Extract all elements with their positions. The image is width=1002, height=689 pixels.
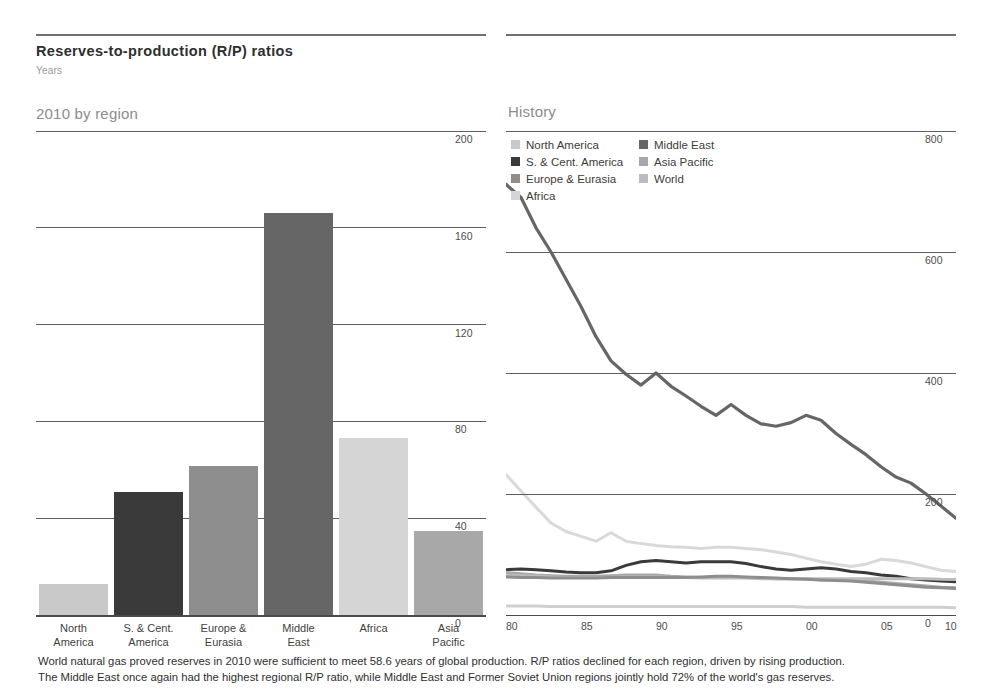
legend-swatch-icon-middle-east (639, 140, 648, 149)
bar-y-tick-80: 80 (455, 423, 467, 435)
legend-label-north-america: North America (526, 139, 599, 151)
bar-y-tick-160: 160 (455, 230, 473, 242)
bar-y-tick-40: 40 (455, 520, 467, 532)
bar-x-label-2-line-1: Eurasia (186, 635, 261, 649)
bar-x-label-5-line-1: Pacific (411, 635, 486, 649)
line-x-tick-95: 95 (731, 620, 743, 632)
legend-swatch-icon-s-cent-america (511, 157, 520, 166)
line-x-tick-00: 00 (806, 620, 818, 632)
bar-x-label-1: S. & Cent.America (111, 621, 186, 649)
legend-label-s-cent-america: S. & Cent. America (526, 156, 623, 168)
bar-x-label-0: NorthAmerica (36, 621, 111, 649)
legend-item-africa[interactable]: Africa (511, 187, 623, 204)
line-gridline-0 (506, 615, 956, 617)
header-rule-right (506, 34, 956, 36)
bar-middle-east (264, 213, 334, 615)
bar-x-label-4: Africa (336, 621, 411, 635)
chart-page: Reserves-to-production (R/P) ratios Year… (0, 0, 1002, 689)
bar-gridline-80 (36, 421, 486, 422)
bar-x-label-0-line-1: America (36, 635, 111, 649)
bar-europe-eurasia (189, 466, 259, 615)
line-gridline-800 (506, 131, 956, 132)
bar-gridline-120 (36, 324, 486, 325)
legend-swatch-icon-asia-pacific (639, 157, 648, 166)
line-series-north-america (506, 606, 956, 608)
legend-item-europe-eurasia[interactable]: Europe & Eurasia (511, 170, 623, 187)
bar-x-label-3-line-0: Middle (261, 621, 336, 635)
line-x-tick-05: 05 (881, 620, 893, 632)
line-y-tick-400: 400 (925, 375, 943, 387)
line-y-tick-200: 200 (925, 496, 943, 508)
chart-caption: World natural gas proved reserves in 201… (38, 653, 968, 685)
bar-x-label-1-line-1: America (111, 635, 186, 649)
line-series-middle-east (506, 184, 956, 518)
bar-x-label-4-line-0: Africa (336, 621, 411, 635)
legend-item-world[interactable]: World (639, 170, 714, 187)
bar-x-label-3: MiddleEast (261, 621, 336, 649)
bar-gridline-40 (36, 518, 486, 519)
page-title: Reserves-to-production (R/P) ratios (36, 43, 293, 59)
bar-x-label-2-line-0: Europe & (186, 621, 261, 635)
bar-africa (339, 438, 409, 615)
bar-x-label-3-line-1: East (261, 635, 336, 649)
bar-north-america (39, 584, 109, 615)
page-subtitle: Years (36, 65, 62, 76)
legend-swatch-icon-world (639, 174, 648, 183)
bar-gridline-0 (36, 615, 486, 617)
bar-x-label-1-line-0: S. & Cent. (111, 621, 186, 635)
legend-swatch-icon-north-america (511, 140, 520, 149)
bar-gridline-160 (36, 227, 486, 228)
legend-label-world: World (654, 173, 684, 185)
bar-y-tick-200: 200 (455, 133, 473, 145)
line-gridline-200 (506, 494, 956, 495)
legend-column-2: Middle EastAsia PacificWorld (639, 136, 714, 187)
bar-y-tick-120: 120 (455, 327, 473, 339)
bar-chart-heading: 2010 by region (36, 105, 138, 122)
line-x-tick-85: 85 (581, 620, 593, 632)
line-x-tick-90: 90 (656, 620, 668, 632)
legend-item-middle-east[interactable]: Middle East (639, 136, 714, 153)
legend-swatch-icon-africa (511, 191, 520, 200)
line-series-africa (506, 475, 956, 572)
line-y-tick-600: 600 (925, 254, 943, 266)
legend-column-1: North AmericaS. & Cent. AmericaEurope & … (511, 136, 623, 204)
bar-x-label-5: AsiaPacific (411, 621, 486, 649)
legend-item-north-america[interactable]: North America (511, 136, 623, 153)
line-gridline-400 (506, 373, 956, 374)
line-chart-heading: History (508, 103, 556, 120)
bar-x-label-0-line-0: North (36, 621, 111, 635)
legend-item-asia-pacific[interactable]: Asia Pacific (639, 153, 714, 170)
bar-x-label-5-line-0: Asia (411, 621, 486, 635)
line-x-tick-10: 10 (945, 620, 957, 632)
legend-item-s-cent-america[interactable]: S. & Cent. America (511, 153, 623, 170)
legend-label-africa: Africa (526, 190, 555, 202)
line-x-tick-80: 80 (506, 620, 518, 632)
line-y-tick-800: 800 (925, 133, 943, 145)
line-y-tick-0: 0 (925, 617, 931, 629)
caption-line-2: The Middle East once again had the highe… (38, 669, 968, 685)
legend-label-europe-eurasia: Europe & Eurasia (526, 173, 616, 185)
legend-label-asia-pacific: Asia Pacific (654, 156, 713, 168)
legend-swatch-icon-europe-eurasia (511, 174, 520, 183)
header-rule-left (36, 34, 486, 36)
bar-s-cent-america (114, 492, 184, 615)
bar-chart (36, 131, 486, 615)
line-gridline-600 (506, 252, 956, 253)
legend-label-middle-east: Middle East (654, 139, 714, 151)
caption-line-1: World natural gas proved reserves in 201… (38, 653, 968, 669)
bar-gridline-200 (36, 131, 486, 132)
bar-x-label-2: Europe &Eurasia (186, 621, 261, 649)
bar-asia-pacific (414, 531, 484, 615)
